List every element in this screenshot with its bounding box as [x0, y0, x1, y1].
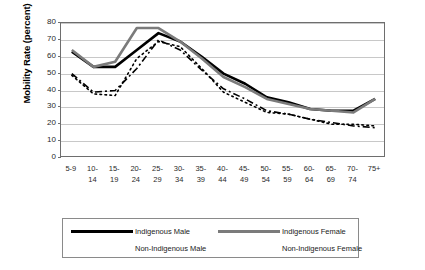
- x-axis-tick-label: 50-54: [255, 163, 277, 185]
- y-axis-tick-label: 60: [10, 52, 56, 60]
- series-line-indigenous-male: [72, 33, 375, 111]
- series-line-non-indigenous-female: [72, 42, 375, 126]
- x-axis-tick-label: 25-29: [147, 163, 169, 185]
- x-axis-tick-label: 20-24: [125, 163, 147, 185]
- mobility-rate-line-chart: Mobility Rate (percent) 8070605040302010…: [0, 0, 425, 270]
- chart-legend: Indigenous MaleIndigenous FemaleNon-Indi…: [62, 218, 359, 258]
- series-lines-layer: [61, 23, 386, 158]
- series-line-indigenous-female: [72, 28, 375, 112]
- y-axis-tick-label: 70: [10, 35, 56, 43]
- series-line-non-indigenous-male: [72, 40, 375, 128]
- plot-area: [60, 22, 385, 157]
- legend-label: Non-Indigenous Female: [282, 244, 362, 253]
- x-axis-tick-label: 65-69: [320, 163, 342, 185]
- legend-item-non-indigenous-female[interactable]: Non-Indigenous Female: [218, 240, 362, 256]
- x-axis-tick-label: 40-44: [212, 163, 234, 185]
- x-axis-tick-label: 55-59: [277, 163, 299, 185]
- legend-item-non-indigenous-male[interactable]: Non-Indigenous Male: [71, 240, 206, 256]
- y-axis-tick-label: 10: [10, 136, 56, 144]
- y-axis-tick-labels: 80706050403020100: [6, 22, 56, 157]
- y-axis-tick-label: 40: [10, 86, 56, 94]
- legend-item-indigenous-male[interactable]: Indigenous Male: [71, 223, 190, 239]
- x-axis-tick-label: 70-74: [342, 163, 364, 185]
- y-axis-tick-label: 20: [10, 119, 56, 127]
- x-axis-tick-label: 15-19: [103, 163, 125, 185]
- y-axis-tick-label: 80: [10, 18, 56, 26]
- x-axis-tick-labels: 5-910-1415-1920-2425-2930-3435-3940-4445…: [60, 163, 385, 193]
- x-axis-tick-label: 75+: [363, 163, 385, 174]
- legend-label: Indigenous Female: [282, 227, 346, 236]
- x-axis-tick-label: 10-14: [82, 163, 104, 185]
- x-axis-tick-label: 45-49: [233, 163, 255, 185]
- x-axis-tick-label: 30-34: [168, 163, 190, 185]
- x-axis-tick-label: 5-9: [60, 163, 82, 174]
- y-axis-tick-label: 50: [10, 69, 56, 77]
- x-axis-tick-label: 60-64: [298, 163, 320, 185]
- legend-item-indigenous-female[interactable]: Indigenous Female: [218, 223, 346, 239]
- dotted-key-icon: [218, 243, 280, 253]
- solid-black-key-icon: [71, 226, 133, 236]
- dash-dot-key-icon: [71, 243, 133, 253]
- legend-label: Indigenous Male: [135, 227, 190, 236]
- solid-grey-key-icon: [218, 226, 280, 236]
- legend-label: Non-Indigenous Male: [135, 244, 206, 253]
- x-axis-tick-label: 35-39: [190, 163, 212, 185]
- y-axis-tick-label: 30: [10, 102, 56, 110]
- y-axis-tick-label: 0: [10, 153, 56, 161]
